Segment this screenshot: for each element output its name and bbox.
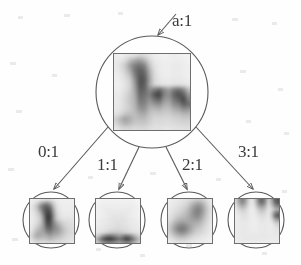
tree-edge-label-2: 2:1 [182,156,203,173]
tree-edge-1 [119,147,139,189]
child-node-image-patch-1 [95,198,141,244]
root-node-label: a:1 [172,12,192,29]
figure-canvas: a:1 0:1 1:1 2:1 3:1 [0,0,301,265]
root-node-image-patch [113,53,191,131]
child-node-image-patch-2 [167,198,213,244]
tree-edge-label-3: 3:1 [238,143,259,160]
tree-edge-label-1: 1:1 [97,156,118,173]
tree-edge-label-0: 0:1 [38,143,59,160]
child-node-image-patch-3 [234,198,280,244]
child-node-image-patch-0 [29,198,75,244]
